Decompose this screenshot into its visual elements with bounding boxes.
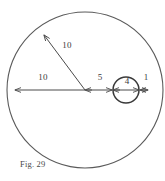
label-segment-4: 4 xyxy=(121,77,133,86)
label-radius-horizontal: 10 xyxy=(36,73,50,82)
label-segment-1: 1 xyxy=(142,73,150,82)
figure-caption: Fig. 29 xyxy=(20,160,46,169)
figure-29-diagram: 10 10 5 4 1 Fig. 29 xyxy=(0,0,165,181)
label-segment-5: 5 xyxy=(95,73,105,82)
label-radius-diagonal: 10 xyxy=(60,41,74,50)
geometry-drawing xyxy=(0,0,165,181)
